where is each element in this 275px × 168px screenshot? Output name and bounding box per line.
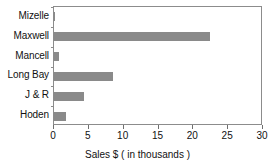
x-axis-tick-label-0: 0 [40,130,66,142]
y-axis-tick-5 [51,106,54,107]
x-axis-title: Sales $ ( in thousands ) [0,149,275,161]
x-axis-tick-label-5: 25 [214,130,240,142]
x-axis-tick-label-4: 20 [179,130,205,142]
y-axis-tick-1 [51,27,54,28]
bar-chart: Mizelle Maxwell Mancell Long Bay J & R H… [0,0,275,168]
y-axis-tick-4 [51,86,54,87]
y-axis-label-4: J & R [0,90,49,100]
bar-maxwell [54,32,210,41]
y-axis-label-2: Mancell [0,51,49,61]
x-axis-tick-label-6: 30 [249,130,275,142]
plot-area [53,6,262,125]
y-axis-label-5: Hoden [0,110,49,120]
y-axis-category-labels: Mizelle Maxwell Mancell Long Bay J & R H… [0,6,49,125]
x-axis-tick-5 [227,125,228,129]
x-axis-tick-0 [53,125,54,129]
bar-mizelle [54,12,55,21]
x-axis-tick-1 [88,125,89,129]
x-axis-tick-4 [192,125,193,129]
y-axis-label-1: Maxwell [0,31,49,41]
bar-j-and-r [54,92,84,101]
x-axis-tick-3 [158,125,159,129]
x-axis-tick-2 [123,125,124,129]
bar-long-bay [54,72,113,81]
y-axis-label-0: Mizelle [0,11,49,21]
y-axis-tick-2 [51,47,54,48]
y-axis-label-3: Long Bay [0,70,49,80]
bar-mancell [54,52,59,61]
x-axis-tick-label-3: 15 [145,130,171,142]
y-axis-tick-3 [51,67,54,68]
x-axis-tick-label-2: 10 [110,130,136,142]
x-axis-tick-6 [262,125,263,129]
bar-hoden [54,112,66,121]
x-axis-tick-labels: 051015202530 [0,130,275,144]
x-axis-tick-label-1: 5 [75,130,101,142]
y-axis-tick-0 [51,7,54,8]
